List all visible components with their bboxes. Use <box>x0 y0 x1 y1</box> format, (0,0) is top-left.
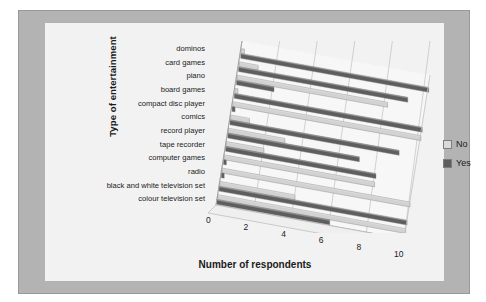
category-label: tape recorder <box>75 141 205 149</box>
chart-legend: No Yes <box>443 139 486 177</box>
legend-swatch-no-icon <box>443 140 452 149</box>
category-label: piano <box>75 72 205 80</box>
category-label: colour television set <box>75 195 205 203</box>
chart-screenshot: Type of entertainment dominoscard gamesp… <box>0 0 486 302</box>
category-label: radio <box>75 168 205 176</box>
legend-item-yes[interactable]: Yes <box>443 158 486 168</box>
legend-swatch-yes-icon <box>443 159 452 168</box>
x-tick-label: 8 <box>356 242 361 252</box>
x-tick-label: 6 <box>319 235 324 245</box>
category-label: comics <box>75 113 205 121</box>
x-tick-label: 2 <box>244 222 249 232</box>
x-axis-title: Number of respondents <box>105 259 405 270</box>
category-label: computer games <box>75 154 205 162</box>
legend-item-no[interactable]: No <box>443 139 486 149</box>
category-label: card games <box>75 59 205 67</box>
x-tick-label: 0 <box>206 215 211 225</box>
x-tick-label: 10 <box>394 249 403 259</box>
category-label: black and white television set <box>75 182 205 190</box>
plot-area: 0246810 <box>208 37 440 233</box>
category-label: dominos <box>75 45 205 53</box>
legend-label-no: No <box>456 139 468 149</box>
category-label-list: dominoscard gamespianoboard gamescompact… <box>75 37 205 227</box>
category-label: compact disc player <box>75 100 205 108</box>
category-label: board games <box>75 86 205 94</box>
legend-label-yes: Yes <box>456 158 471 168</box>
category-label: record player <box>75 127 205 135</box>
bar-chart-svg <box>208 37 440 233</box>
chart-plot-card: Type of entertainment dominoscard gamesp… <box>45 23 444 281</box>
chart-card: Type of entertainment dominoscard gamesp… <box>18 10 470 294</box>
x-tick-label: 4 <box>281 229 286 239</box>
